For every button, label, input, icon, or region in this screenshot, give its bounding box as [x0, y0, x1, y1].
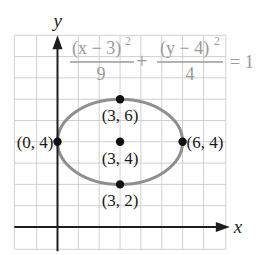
point-label: (0, 4) [17, 133, 54, 152]
x-axis-label: x [233, 216, 243, 237]
equals-one: = 1 [230, 52, 254, 72]
y-axis-label: y [52, 10, 63, 31]
term2-exponent: 2 [214, 34, 220, 48]
ellipse-equation: (x − 3) 2 9 + (y − 4) 2 4 = 1 [68, 31, 262, 84]
point-marker [178, 138, 186, 146]
point-label: (3, 2) [102, 191, 139, 210]
point-marker [116, 138, 124, 146]
plus-sign: + [136, 50, 147, 72]
point-label: (3, 4) [102, 149, 139, 168]
term1-denominator: 9 [97, 64, 106, 84]
term2-numerator: (y − 4) [160, 38, 209, 59]
point-marker [53, 138, 61, 146]
point-label: (3, 6) [102, 106, 139, 125]
term2-denominator: 4 [186, 64, 195, 84]
ellipse-graph: x y (x − 3) 2 9 + (y − 4) 2 4 = 1 (3, 6)… [0, 0, 262, 255]
x-axis-arrow-icon [216, 222, 230, 232]
points: (3, 6)(0, 4)(3, 4)(6, 4)(3, 2) [17, 95, 224, 210]
point-label: (6, 4) [187, 133, 224, 152]
term1-numerator: (x − 3) [72, 38, 121, 59]
term1-exponent: 2 [125, 34, 131, 48]
y-axis-arrow-icon [53, 35, 63, 49]
point-marker [116, 180, 124, 188]
point-marker [116, 95, 124, 103]
